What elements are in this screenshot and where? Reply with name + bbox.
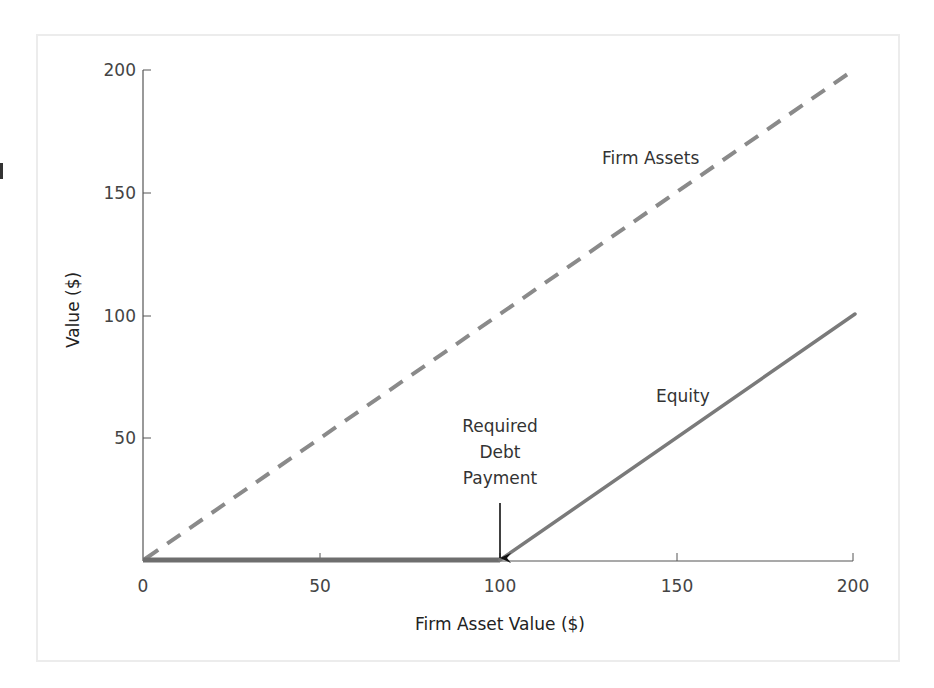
- label-equity: Equity: [656, 386, 710, 406]
- y-axis-title: Value ($): [63, 272, 83, 348]
- annotation-line: Required: [462, 416, 538, 436]
- y-tick-label: 150: [104, 183, 136, 203]
- x-tick-label: 200: [837, 576, 869, 596]
- annotation-line: Debt: [479, 442, 520, 462]
- x-axis-title: Firm Asset Value ($): [415, 614, 585, 634]
- x-tick-label: 50: [309, 576, 331, 596]
- debt-payment-annotation: Required Debt Payment: [462, 416, 538, 558]
- y-tick-label: 200: [104, 60, 136, 80]
- annotation-line: Payment: [463, 468, 538, 488]
- x-tick-label: 150: [661, 576, 693, 596]
- y-tick-label: 50: [114, 428, 136, 448]
- chart: 200 150 100 50 0 50 100 150 200 Firm Ass…: [0, 0, 934, 688]
- x-tick-label: 100: [484, 576, 516, 596]
- label-firm-assets: Firm Assets: [602, 148, 699, 168]
- y-axis: [143, 70, 151, 561]
- x-tick-label: 0: [138, 576, 149, 596]
- series-equity: [143, 314, 855, 560]
- y-tick-label: 100: [104, 306, 136, 326]
